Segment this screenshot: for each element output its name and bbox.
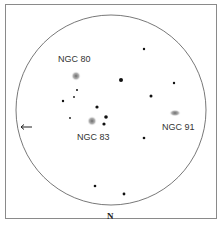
north-label: N bbox=[107, 211, 114, 221]
star-marker bbox=[119, 78, 123, 82]
star-marker bbox=[95, 105, 98, 108]
stars-layer bbox=[62, 48, 175, 196]
star-marker bbox=[62, 100, 64, 102]
star-marker bbox=[104, 115, 108, 119]
star-marker bbox=[150, 95, 153, 98]
object-label: NGC 80 bbox=[58, 54, 91, 64]
finder-chart bbox=[0, 0, 223, 226]
object-label: NGC 91 bbox=[162, 122, 195, 132]
object-label: NGC 83 bbox=[77, 132, 110, 142]
star-marker bbox=[69, 117, 71, 119]
galaxies-layer bbox=[71, 71, 181, 126]
star-marker bbox=[73, 96, 75, 98]
star-marker bbox=[76, 89, 78, 91]
star-marker bbox=[143, 137, 146, 140]
star-marker bbox=[143, 48, 145, 50]
star-marker bbox=[173, 82, 175, 84]
star-marker bbox=[123, 193, 126, 196]
galaxy-marker bbox=[71, 71, 81, 81]
star-marker bbox=[94, 185, 97, 188]
galaxy-marker bbox=[87, 116, 97, 126]
galaxy-marker bbox=[169, 110, 181, 117]
direction-arrow-icon bbox=[21, 125, 32, 130]
star-marker bbox=[102, 122, 105, 125]
